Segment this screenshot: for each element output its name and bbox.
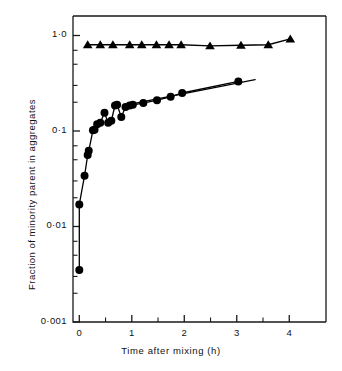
y-tick-label: 1·0 — [52, 28, 67, 39]
plot-frame — [73, 16, 326, 322]
figure-container: 1·00·10·010·00101234 Time after mixing (… — [0, 0, 342, 371]
data-point-circles — [107, 117, 115, 125]
data-point-circles — [100, 109, 108, 117]
data-point-circles — [75, 266, 83, 274]
series-markers — [75, 35, 295, 274]
data-point-circles — [96, 119, 104, 127]
series-line-triangles — [88, 39, 291, 46]
data-point-circles — [113, 101, 121, 109]
x-tick-label: 4 — [269, 327, 309, 338]
data-point-circles — [167, 93, 175, 101]
data-point-circles — [178, 89, 186, 97]
data-point-circles — [75, 200, 83, 208]
axes-frame — [73, 16, 326, 322]
data-point-circles — [139, 99, 147, 107]
y-axis-title: Fraction of minority parent in aggregate… — [26, 99, 37, 290]
data-point-circles — [81, 172, 89, 180]
x-tick-label: 0 — [59, 327, 99, 338]
x-tick-label: 2 — [164, 327, 204, 338]
data-point-circles — [234, 77, 242, 85]
x-tick-label: 3 — [217, 327, 257, 338]
data-point-triangles — [286, 35, 296, 43]
axis-ticks — [73, 35, 289, 322]
y-tick-label: 0·01 — [46, 219, 67, 230]
data-point-circles — [153, 96, 161, 104]
x-axis-title: Time after mixing (h) — [0, 345, 342, 356]
data-point-circles — [117, 113, 125, 121]
data-point-circles — [129, 101, 137, 109]
y-tick-label: 0·1 — [52, 124, 67, 135]
x-tick-label: 1 — [112, 327, 152, 338]
series-lines — [79, 39, 290, 270]
data-point-circles — [85, 147, 93, 155]
y-tick-label: 0·001 — [41, 315, 67, 326]
